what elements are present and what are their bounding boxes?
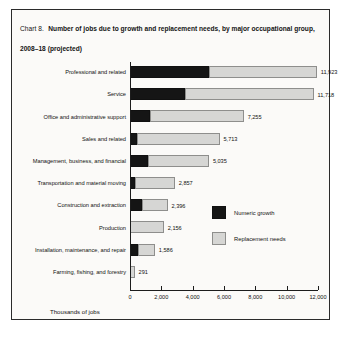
bar-segment-numeric-growth <box>130 66 209 78</box>
bar-segment-numeric-growth <box>130 155 148 167</box>
bar-row <box>130 110 244 122</box>
category-label: Transportation and material moving <box>6 180 126 186</box>
bar-segment-numeric-growth <box>130 133 137 145</box>
x-axis-tick <box>193 286 194 290</box>
bar-row <box>130 133 220 145</box>
bar-segment-replacement-needs <box>185 88 313 100</box>
bar-value-label: 2,396 <box>172 203 186 209</box>
category-label: Construction and extraction <box>6 202 126 208</box>
x-axis-tick <box>130 286 131 290</box>
category-label: Service <box>6 91 126 97</box>
bar-value-label: 11,923 <box>321 69 338 75</box>
x-axis-title: Thousands of jobs <box>50 308 100 315</box>
bar-segment-replacement-needs <box>130 221 163 233</box>
chart-card: Chart 8. Number of jobs due to growth an… <box>11 9 330 320</box>
bar-segment-replacement-needs <box>135 177 174 189</box>
bar-row <box>130 88 314 100</box>
y-axis-line <box>130 62 131 290</box>
category-label: Production <box>6 225 126 231</box>
bar-row <box>130 155 209 167</box>
bar-segment-numeric-growth <box>130 244 138 256</box>
bar-segment-numeric-growth <box>130 110 150 122</box>
category-label: Office and administrative support <box>6 114 126 120</box>
bar-segment-replacement-needs <box>138 244 155 256</box>
bar-row <box>130 244 155 256</box>
x-axis-tick <box>224 286 225 290</box>
x-axis-tick-label: 12,000 <box>298 294 338 300</box>
category-label: Management, business, and financial <box>6 158 126 164</box>
legend-swatch-replacement <box>212 232 226 245</box>
category-label: Farming, fishing, and forestry <box>6 269 126 275</box>
x-axis-tick <box>318 286 319 290</box>
x-axis-tick <box>255 286 256 290</box>
bar-segment-numeric-growth <box>130 199 142 211</box>
category-label: Sales and related <box>6 136 126 142</box>
bar-segment-numeric-growth <box>130 88 185 100</box>
bar-segment-replacement-needs <box>209 66 317 78</box>
bar-segment-replacement-needs <box>137 133 219 145</box>
bar-value-label: 5,035 <box>213 158 227 164</box>
bar-segment-replacement-needs <box>142 199 168 211</box>
bar-segment-replacement-needs <box>148 155 209 167</box>
x-axis-tick <box>287 286 288 290</box>
x-axis-tick <box>161 286 162 290</box>
legend-label: Replacement needs <box>234 236 286 242</box>
bar-value-label: 5,713 <box>224 136 238 142</box>
bar-row <box>130 199 168 211</box>
legend-swatch-growth <box>212 206 226 219</box>
x-axis-line <box>130 290 318 291</box>
bar-value-label: 11,718 <box>318 92 335 98</box>
bar-value-label: 1,586 <box>159 247 173 253</box>
bar-value-label: 2,156 <box>168 225 182 231</box>
category-label: Professional and related <box>6 69 126 75</box>
bar-row <box>130 66 317 78</box>
plot-area: Professional and related11,923Service11,… <box>12 10 331 321</box>
bar-row <box>130 221 164 233</box>
bar-row <box>130 177 175 189</box>
bar-value-label: 2,857 <box>179 180 193 186</box>
legend-label: Numeric growth <box>234 210 275 216</box>
bar-segment-replacement-needs <box>150 110 244 122</box>
bar-value-label: 7,255 <box>248 114 262 120</box>
bar-value-label: 291 <box>139 269 148 275</box>
category-label: Installation, maintenance, and repair <box>6 247 126 253</box>
